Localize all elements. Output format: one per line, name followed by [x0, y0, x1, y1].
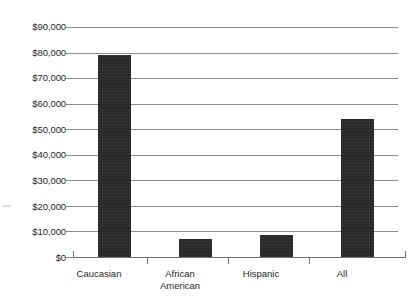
y-axis-tick-label: $20,000 — [32, 202, 66, 212]
bar-caucasian[interactable] — [98, 55, 131, 257]
gridline-90000 — [73, 27, 398, 28]
x-axis-category-label-all: All — [309, 268, 375, 280]
axis-start-tick — [73, 251, 74, 257]
bar-hispanic[interactable] — [260, 235, 293, 257]
category-separator-tick — [228, 257, 229, 264]
y-axis-tick-label: $70,000 — [32, 73, 66, 83]
category-separator-tick — [309, 257, 310, 264]
bar-all[interactable] — [341, 119, 374, 257]
x-axis-category-label-hispanic: Hispanic — [228, 268, 294, 280]
x-axis-category-label-african-american: African American — [147, 268, 213, 291]
gridline-80000 — [73, 53, 398, 54]
y-axis-tick-label: $0 — [56, 253, 66, 263]
category-separator-tick — [147, 257, 148, 264]
y-axis-tick-label: $30,000 — [32, 176, 66, 186]
y-axis-tick-label: $90,000 — [32, 22, 66, 32]
y-axis-tick-label: $50,000 — [32, 125, 66, 135]
y-axis-tick-label: $10,000 — [32, 227, 66, 237]
y-axis-tick-label: $80,000 — [32, 48, 66, 58]
y-axis-tick-label: $60,000 — [32, 99, 66, 109]
y-axis-tick-label: $40,000 — [32, 150, 66, 160]
axis-end-tick — [405, 251, 406, 257]
scan-artifact — [2, 205, 11, 207]
x-axis-category-label-caucasian: Caucasian — [66, 268, 132, 280]
plot-area — [73, 27, 398, 257]
axis-baseline-extension — [73, 257, 406, 258]
bar-african-american[interactable] — [179, 239, 212, 257]
bar-chart: $90,000 $80,000 $70,000 $60,000 $50,000 … — [0, 0, 419, 304]
